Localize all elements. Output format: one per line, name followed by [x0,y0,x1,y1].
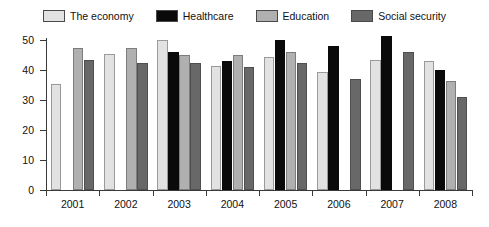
legend-item-2[interactable]: Education [256,10,330,22]
bar-2008-series-3[interactable] [457,97,468,190]
bar-2007-series-3[interactable] [403,52,414,190]
y-axis-tick-label: 40 [0,65,34,75]
bar-2001-series-0[interactable] [51,84,62,191]
y-axis-tick-label: 0 [0,185,34,195]
x-axis-tick-label: 2004 [202,198,262,210]
legend-label: The economy [70,10,134,22]
legend-item-0[interactable]: The economy [43,10,134,22]
legend-swatch-icon [43,10,65,22]
legend-label: Education [283,10,330,22]
bar-2004-series-3[interactable] [244,67,255,190]
bar-2001-series-3[interactable] [84,60,95,191]
x-axis-tick [472,191,473,196]
bar-2006-series-3[interactable] [350,79,361,190]
bar-2007-series-1[interactable] [381,36,392,191]
bar-group-2003 [153,40,206,190]
bar-2003-series-1[interactable] [168,52,179,190]
bar-group-2002 [99,40,152,190]
bar-chart: The economyHealthcareEducationSocial sec… [0,0,489,227]
y-axis-tick-label: 30 [0,95,34,105]
legend-swatch-icon [351,10,373,22]
bar-group-2006 [312,40,365,190]
chart-legend: The economyHealthcareEducationSocial sec… [0,7,489,25]
x-axis-tick [366,191,367,196]
y-axis-tick-label: 50 [0,35,34,45]
bar-2003-series-3[interactable] [190,63,201,191]
x-axis-tick [419,191,420,196]
bar-2004-series-2[interactable] [233,55,244,190]
x-axis-tick-label: 2006 [309,198,369,210]
x-axis-tick [46,191,47,196]
bar-2004-series-0[interactable] [211,66,222,191]
x-axis-tick-label: 2008 [415,198,475,210]
bar-2006-series-1[interactable] [328,46,339,190]
bar-group-2005 [259,40,312,190]
x-axis-tick [153,191,154,196]
bar-2001-series-2[interactable] [73,48,84,191]
bar-group-2007 [366,40,419,190]
legend-item-3[interactable]: Social security [351,10,446,22]
x-axis-tick-label: 2007 [362,198,422,210]
x-axis-tick-label: 2005 [256,198,316,210]
bar-2005-series-1[interactable] [275,40,286,190]
bar-2008-series-2[interactable] [446,81,457,191]
legend-label: Healthcare [183,10,234,22]
bar-2002-series-0[interactable] [104,54,115,191]
bar-2008-series-1[interactable] [435,70,446,190]
legend-swatch-icon [256,10,278,22]
plot-area [46,40,472,190]
x-axis-tick-label: 2001 [43,198,103,210]
legend-swatch-icon [156,10,178,22]
y-axis-tick-label: 10 [0,155,34,165]
bar-2007-series-0[interactable] [370,60,381,191]
x-axis-tick [206,191,207,196]
x-axis-tick-label: 2002 [96,198,156,210]
x-axis-tick-label: 2003 [149,198,209,210]
x-axis-tick [259,191,260,196]
bar-2005-series-0[interactable] [264,57,275,191]
y-axis-tick-label: 20 [0,125,34,135]
legend-item-1[interactable]: Healthcare [156,10,234,22]
bar-2002-series-3[interactable] [137,63,148,191]
x-axis-tick [99,191,100,196]
bar-group-2008 [419,40,472,190]
bar-2006-series-0[interactable] [317,72,328,191]
bar-2003-series-0[interactable] [157,40,168,190]
bar-2003-series-2[interactable] [179,55,190,190]
bar-2005-series-3[interactable] [297,63,308,191]
bar-2008-series-0[interactable] [424,61,435,190]
legend-label: Social security [378,10,446,22]
bar-group-2004 [206,40,259,190]
bar-group-2001 [46,40,99,190]
bar-2002-series-2[interactable] [126,48,137,191]
x-axis-tick [312,191,313,196]
bar-2004-series-1[interactable] [222,61,233,190]
bar-2005-series-2[interactable] [286,52,297,190]
